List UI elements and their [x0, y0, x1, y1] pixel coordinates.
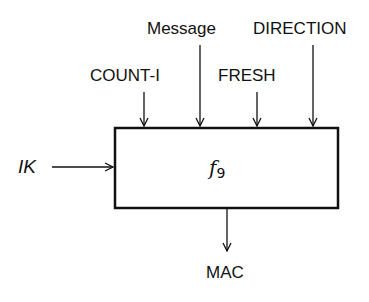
- f9-block: [115, 128, 338, 208]
- fresh-label: FRESH: [218, 67, 276, 84]
- ik-label: IK: [18, 157, 36, 176]
- function-label: f9: [209, 156, 225, 181]
- message-label: Message: [147, 20, 216, 37]
- count-i-label: COUNT-I: [90, 67, 160, 84]
- mac-label: MAC: [206, 264, 244, 281]
- direction-label: DIRECTION: [253, 20, 347, 37]
- function-subscript: 9: [216, 165, 225, 181]
- diagram-wires: [0, 0, 369, 302]
